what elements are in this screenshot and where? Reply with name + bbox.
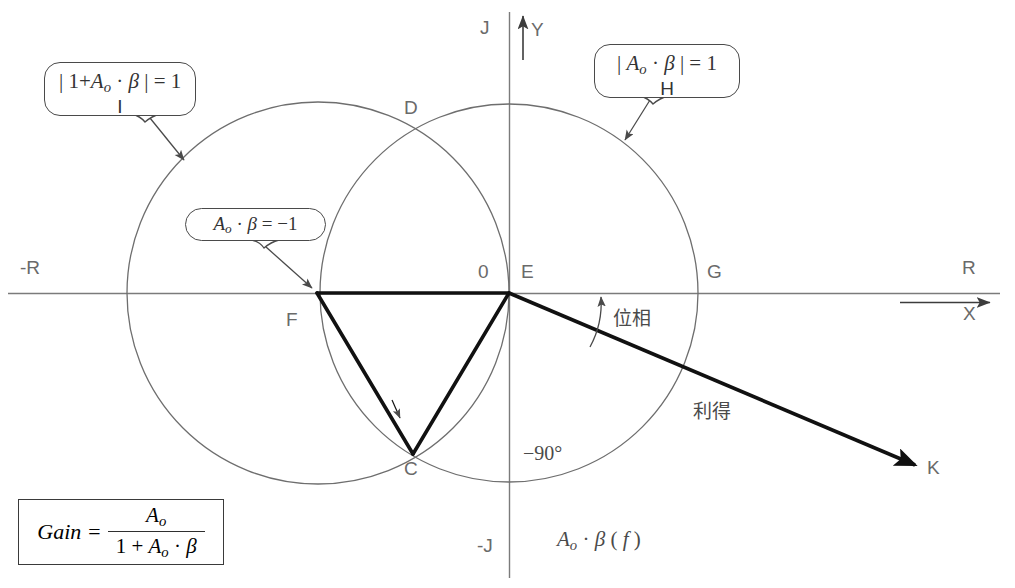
- gain-formula-denominator: 1 + Ao · β: [108, 531, 205, 561]
- point-label-O: 0: [478, 262, 489, 281]
- annotation-gain-vector: 利得: [693, 402, 731, 421]
- vector-F-to-C: [317, 293, 413, 454]
- callout-loop-magnitude-H[interactable]: | Ao · β | = 1 H: [594, 44, 740, 98]
- diagram-canvas: -R R J -J Y X 0 E F G D C K 位相 利得 −90° A…: [0, 0, 1015, 588]
- gain-formula-box: Gain = Ao 1 + Ao · β: [18, 499, 224, 565]
- annotation-phase: 位相: [613, 309, 651, 328]
- axis-label-x-arrow: X: [963, 304, 976, 323]
- callout-H-tag: H: [609, 78, 725, 100]
- axis-label-positive-real: R: [962, 258, 976, 277]
- callout-I-tag: I: [59, 96, 181, 118]
- point-label-C: C: [404, 459, 418, 478]
- leader-callout-H: [625, 100, 650, 140]
- callout-H-equation: | Ao · β | = 1: [609, 51, 725, 78]
- gain-formula-lhs: Gain =: [37, 519, 101, 545]
- leader-callout-critical: [266, 247, 312, 288]
- vector-triangle: [317, 293, 509, 454]
- callout-critical-point[interactable]: Ao · β = −1: [185, 208, 326, 241]
- tail-callout-critical: [252, 240, 279, 248]
- axis-label-negative-imaginary: -J: [477, 536, 493, 555]
- annotation-minus-90-degrees: −90°: [523, 443, 562, 463]
- point-label-F: F: [286, 310, 298, 329]
- callout-I-equation: | 1+Ao · β | = 1: [59, 69, 181, 96]
- point-label-E: E: [521, 262, 534, 281]
- gain-vector-E-to-K: [509, 293, 915, 465]
- leader-callout-I: [150, 118, 184, 160]
- axis-label-negative-real: -R: [20, 258, 40, 277]
- point-label-D: D: [404, 98, 418, 117]
- axis-label-positive-imaginary: J: [480, 18, 490, 37]
- point-label-K: K: [927, 458, 940, 477]
- annotation-transfer-function: Ao · β ( f ): [557, 527, 641, 554]
- gain-formula-fraction: Ao 1 + Ao · β: [108, 503, 205, 560]
- callout-loop-magnitude-I[interactable]: | 1+Ao · β | = 1 I: [44, 62, 196, 116]
- point-label-G: G: [707, 262, 722, 281]
- callout-leaders: [132, 96, 668, 288]
- gain-formula-numerator: Ao: [138, 503, 174, 531]
- callout-critical-equation: Ao · β = −1: [196, 213, 315, 237]
- phase-angle-arc: [590, 297, 601, 347]
- arrow-marker-on-FC: [392, 400, 400, 418]
- axis-label-y-arrow: Y: [531, 20, 544, 39]
- vector-C-to-E: [413, 293, 509, 454]
